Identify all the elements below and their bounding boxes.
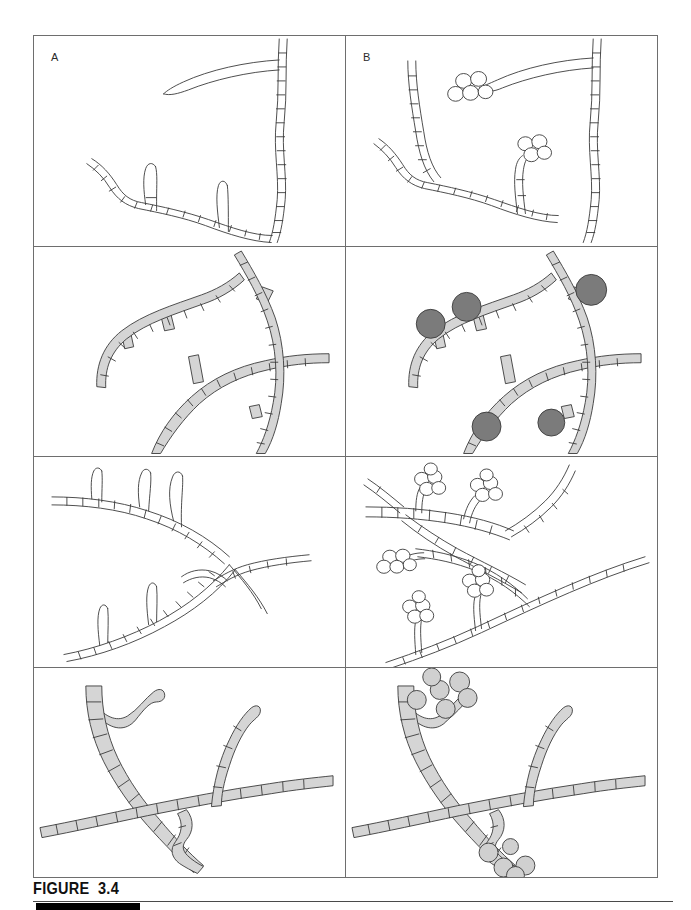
panel-2b (346, 247, 658, 458)
figure-caption-block: FIGURE 3.4 (33, 880, 673, 907)
panel-2a-drawing (34, 247, 345, 457)
panel-1b: B (346, 36, 658, 247)
panel-4b (346, 668, 658, 879)
conidia-cluster (518, 135, 552, 162)
panel-3b-drawing (346, 457, 657, 667)
panel-3b (346, 457, 658, 668)
conidia-cluster (377, 463, 503, 623)
caption-rule (33, 901, 673, 902)
budding-spore (407, 668, 477, 718)
panel-3a-drawing (34, 457, 345, 667)
panel-1a: A (34, 36, 346, 247)
panel-4a-drawing (34, 668, 345, 878)
panel-3a (34, 457, 346, 668)
panel-1a-drawing (34, 36, 345, 246)
conidia-cluster (448, 72, 493, 102)
panel-4a (34, 668, 346, 879)
panel-4b-drawing (346, 668, 657, 878)
panel-1b-drawing (346, 36, 657, 246)
panel-label-a: A (51, 52, 59, 63)
panel-2b-drawing (346, 247, 657, 457)
figure-caption-label: FIGURE 3.4 (33, 880, 119, 897)
panel-2a (34, 247, 346, 458)
panel-label-b: B (363, 52, 371, 63)
panel-grid: A (33, 35, 658, 878)
caption-accent-bar (36, 903, 140, 910)
